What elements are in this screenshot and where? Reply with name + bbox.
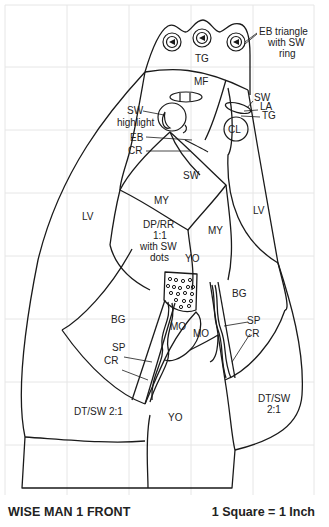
label-dp: 1:1 bbox=[153, 230, 167, 241]
triangle-icon bbox=[199, 35, 205, 41]
label-dt-left: DT/SW 2:1 bbox=[74, 406, 123, 417]
label-tg-eye: TG bbox=[262, 110, 276, 121]
label-eb-triangle: EB triangle bbox=[259, 26, 308, 37]
left-eye bbox=[170, 92, 202, 102]
label-mo-left: MO bbox=[170, 321, 186, 332]
dt-left-top bbox=[25, 437, 145, 442]
label-cr-right: CR bbox=[245, 328, 259, 339]
label-cr-left: CR bbox=[104, 355, 118, 366]
label-tg-crown: TG bbox=[195, 53, 209, 64]
label-dp: dots bbox=[150, 252, 169, 263]
label-sw-highlight: SW bbox=[127, 105, 144, 116]
face-right bbox=[205, 80, 226, 140]
sw-dots bbox=[166, 277, 194, 308]
scarf-left-outer bbox=[132, 300, 165, 400]
face-left bbox=[120, 72, 145, 190]
face-details bbox=[158, 92, 252, 152]
label-lv-right: LV bbox=[253, 205, 265, 216]
right-eye bbox=[224, 100, 251, 115]
scale-note: 1 Square = 1 Inch bbox=[212, 505, 315, 519]
label-sw-beard: SW bbox=[183, 170, 200, 181]
label-yo-bottom: YO bbox=[168, 412, 183, 423]
bg-left-lower bbox=[62, 330, 145, 404]
nose bbox=[183, 125, 186, 133]
label-sw-highlight: highlight bbox=[117, 117, 154, 128]
label-eb: EB bbox=[130, 132, 144, 143]
label-sp-right: SP bbox=[247, 315, 261, 326]
diagram-title: WISE MAN 1 FRONT bbox=[8, 505, 130, 519]
yo-right bbox=[225, 380, 235, 450]
label-bg-right: BG bbox=[232, 288, 247, 299]
triangle-icon bbox=[169, 39, 175, 45]
triangle-icon bbox=[233, 39, 239, 45]
pattern-diagram: EB triangle with SW ring TG MF SW LA TG … bbox=[0, 0, 329, 527]
my-left bbox=[110, 190, 120, 245]
mo-right bbox=[190, 335, 218, 362]
sw-highlight-shape bbox=[163, 112, 170, 128]
label-cl: CL bbox=[228, 124, 241, 135]
label-eb-triangle: with SW bbox=[267, 37, 305, 48]
scarf-right-wave1 bbox=[212, 285, 226, 378]
label-cr-face: CR bbox=[128, 145, 142, 156]
label-bg-left: BG bbox=[111, 314, 126, 325]
yo-left bbox=[147, 415, 150, 488]
label-dt-right: DT/SW bbox=[258, 393, 291, 404]
my-right bbox=[226, 185, 232, 280]
label-my-right: MY bbox=[208, 225, 223, 236]
label-mf: MF bbox=[194, 76, 208, 87]
label-dt-right: 2:1 bbox=[267, 404, 281, 415]
scarf-left-wave2 bbox=[150, 303, 173, 402]
beard-mid bbox=[170, 132, 200, 175]
scarf-left-inner bbox=[145, 303, 175, 404]
label-dp: DP/RR bbox=[143, 219, 174, 230]
label-dp: with SW bbox=[139, 241, 177, 252]
label-mo-right: MO bbox=[193, 328, 209, 339]
label-eb-triangle: ring bbox=[279, 48, 296, 59]
mustache bbox=[185, 140, 208, 152]
label-my-left: MY bbox=[154, 195, 169, 206]
label-yo-top: YO bbox=[185, 253, 200, 264]
label-lv-left: LV bbox=[82, 211, 94, 222]
label-sp-left: SP bbox=[112, 342, 126, 353]
